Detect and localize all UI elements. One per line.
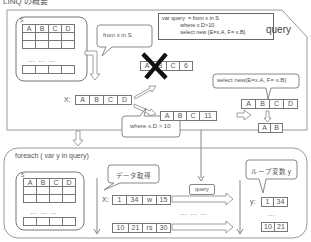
source-table-last-row (22, 65, 75, 74)
source-table: A B C D (22, 24, 75, 49)
query-code-box: var query = from x in S where x.D>10 sel… (158, 13, 274, 40)
cell: 10 (113, 224, 129, 232)
table-ellipsis: … … … (28, 56, 55, 63)
header-cell: C (50, 179, 63, 187)
cell: C (104, 96, 118, 104)
cell: 21 (129, 224, 143, 232)
select-bubble-text: select new{E=x.A, F= x.B} (217, 77, 286, 83)
cell: D (118, 96, 131, 104)
cell: 1 (262, 198, 274, 206)
from-bubble-text: from x in S (103, 32, 132, 38)
reject-x-icon (140, 52, 170, 82)
cell: A (242, 100, 256, 108)
accepted-row: A B C 11 (160, 111, 217, 121)
header-cell: D (62, 25, 75, 33)
cell: A (259, 124, 271, 132)
header-cell: B (37, 179, 50, 187)
cell: 1 (113, 196, 127, 204)
cell: B (256, 100, 270, 108)
cell: w (143, 196, 157, 204)
cell: 6 (180, 62, 192, 70)
x-label: X: (102, 196, 109, 203)
foreach-label: foreach ( var y in query) (15, 152, 89, 159)
table-ellipsis: … … … (30, 208, 57, 215)
cell: A (161, 112, 174, 120)
y-row: 1 34 (261, 197, 288, 207)
code-line: where x.D>10 (162, 22, 270, 29)
rows-ellipsis: … … … (180, 209, 207, 216)
cell: B (90, 96, 104, 104)
cell: 30 (157, 224, 170, 232)
y-ellipsis: … (268, 210, 276, 217)
diagram-title: LINQ の概要 (3, 0, 48, 6)
x-row: A B C D (75, 95, 132, 105)
select-row: A B C D (241, 99, 298, 109)
query-tag: query (189, 184, 215, 195)
code-line: var query = from x in S (162, 15, 270, 22)
loop-bubble-text: ループ変数 y (251, 166, 291, 176)
cell: 34 (127, 196, 143, 204)
header-cell: B (36, 25, 49, 33)
source-table: A B C D (23, 178, 76, 203)
code-line: select new {E=x.A, F= x.B} (162, 29, 270, 36)
cell: 10 (262, 223, 275, 231)
header-cell: A (23, 25, 36, 33)
cell: 21 (275, 223, 287, 231)
cell: 11 (200, 112, 216, 120)
y-label: y: (250, 198, 255, 205)
query-label: query (266, 24, 291, 35)
cell: C (187, 112, 200, 120)
where-bubble-text: where x.D > 10 (130, 123, 171, 129)
cell: A (76, 96, 90, 104)
cell: 34 (274, 198, 287, 206)
cell: C (270, 100, 284, 108)
y-row: 10 21 (261, 222, 288, 232)
source-table-last-row (23, 217, 76, 226)
header-cell: D (63, 179, 76, 187)
cell: D (284, 100, 297, 108)
source-label: S (20, 17, 23, 23)
result-row: A B (258, 123, 283, 133)
header-cell: C (49, 25, 62, 33)
fetch-bubble-text: データ取得 (116, 170, 151, 180)
cell: B (271, 124, 282, 132)
cell: 15 (157, 196, 170, 204)
data-row: 1 34 w 15 (112, 195, 171, 205)
header-cell: A (24, 179, 37, 187)
x-row-label: X: (64, 96, 71, 103)
cell: rs (143, 224, 157, 232)
data-row: 10 21 rs 30 (112, 223, 171, 233)
cell: B (174, 112, 187, 120)
